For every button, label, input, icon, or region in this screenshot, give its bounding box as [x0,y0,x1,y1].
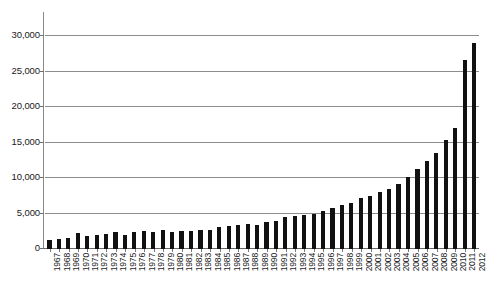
x-axis-tick-mark [380,249,381,252]
x-axis-tick-mark [210,249,211,252]
x-axis-tick-mark [323,249,324,252]
y-axis-tick-label: 0 [0,243,40,253]
x-axis-tick-label: 2008 [440,253,449,271]
x-axis-tick-mark [455,249,456,252]
x-axis-tick-mark [116,249,117,252]
x-axis-tick-label: 2012 [478,253,487,271]
x-axis-tick-mark [276,249,277,252]
x-axis-tick-mark [87,249,88,252]
x-axis-tick-mark [371,249,372,252]
x-axis-tick-mark [389,249,390,252]
x-axis-tick-mark [257,249,258,252]
x-axis-tick-mark [437,249,438,252]
x-axis-tick-mark [106,249,107,252]
y-axis-tick-label: 5,000 [0,208,40,218]
x-axis-tick-mark [172,249,173,252]
x-axis-tick-label: 2001 [374,253,383,271]
x-axis-tick-mark [286,249,287,252]
x-axis-tick-mark [135,249,136,252]
y-axis-tick-label: 10,000 [0,172,40,182]
x-axis-tick-label: 1978 [157,253,166,271]
x-axis-tick-mark [201,249,202,252]
x-axis-tick-mark [144,249,145,252]
x-axis-tick-mark [220,249,221,252]
x-axis-tick-mark [361,249,362,252]
y-axis-tick-mark [40,71,44,72]
y-axis-tick-mark [40,35,44,36]
x-axis-tick-mark [427,249,428,252]
x-axis-tick-label: 1983 [204,253,213,271]
y-axis-tick-mark [40,142,44,143]
x-axis-tick-mark [352,249,353,252]
x-axis-tick-mark [342,249,343,252]
y-axis-labels: 30,00025,00020,00015,00010,0005,0000 [0,0,40,287]
y-axis-tick-label: 30,000 [0,30,40,40]
x-axis-tick-label: 1997 [336,253,345,271]
x-axis-tick-mark [191,249,192,252]
y-axis-tick-mark [40,248,44,249]
y-axis-tick-mark [40,177,44,178]
x-axis-tick-mark [50,249,51,252]
x-axis-tick-mark [238,249,239,252]
x-axis-tick-label: 1974 [119,253,128,271]
x-axis-tick-label: 1990 [270,253,279,271]
bar-chart: 30,00025,00020,00015,00010,0005,0000 196… [0,0,495,287]
x-axis-tick-mark [399,249,400,252]
x-axis-tick-mark [465,249,466,252]
x-axis-tick-mark [295,249,296,252]
x-axis-tick-mark [154,249,155,252]
x-axis-tick-mark [163,249,164,252]
x-axis-tick-mark [446,249,447,252]
x-axis-tick-mark [59,249,60,252]
x-axis-tick-label: 1992 [289,253,298,271]
y-axis-tick-label: 15,000 [0,137,40,147]
x-axis-tick-mark [418,249,419,252]
x-axis-tick-label: 2006 [421,253,430,271]
x-axis-tick-label: 1999 [355,253,364,271]
x-axis-tick-mark [182,249,183,252]
x-axis-tick-mark [248,249,249,252]
x-axis-tick-mark [97,249,98,252]
x-axis-tick-label: 1967 [53,253,62,271]
x-axis-tick-mark [314,249,315,252]
y-axis-tick-mark [40,106,44,107]
y-axis-tick-mark [40,213,44,214]
x-axis-tick-mark [304,249,305,252]
x-axis-tick-mark [408,249,409,252]
x-axis-tick-label: 1976 [138,253,147,271]
x-axis-labels: 1967196819691970197119721973197419751976… [45,0,495,287]
x-axis-tick-mark [333,249,334,252]
x-axis-tick-mark [229,249,230,252]
x-axis-tick-label: 1985 [223,253,232,271]
x-axis-tick-mark [125,249,126,252]
x-axis-tick-mark [267,249,268,252]
x-axis-tick-label: 1969 [72,253,81,271]
y-axis-tick-label: 20,000 [0,101,40,111]
x-axis-tick-mark [474,249,475,252]
y-axis-tick-label: 25,000 [0,66,40,76]
x-axis-tick-mark [78,249,79,252]
x-axis-tick-mark [69,249,70,252]
